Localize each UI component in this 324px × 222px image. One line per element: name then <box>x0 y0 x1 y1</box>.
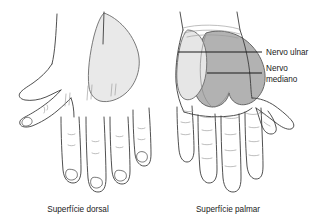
palmar-finger-crease-9 <box>249 127 259 128</box>
dorsal-finger-crease-a <box>68 134 75 135</box>
dorsal-thumb-crease <box>44 107 45 113</box>
palmar-distal-palm-edge <box>184 108 252 117</box>
dorsal-thumb-nail <box>22 117 32 126</box>
caption-dorsal: Superfície dorsal <box>47 205 109 214</box>
dorsal-finger-crease-e <box>116 136 123 137</box>
palmar-finger-ring <box>198 114 217 183</box>
palmar-forearm-left <box>180 12 183 30</box>
palmar-finger-crease-7 <box>225 150 236 151</box>
dorsal-knuckle-crease-3 <box>87 86 88 100</box>
dorsal-thumb-crease-2 <box>47 105 48 110</box>
dorsal-nail-ring <box>115 170 127 181</box>
dorsal-hand <box>19 12 151 192</box>
caption-palmar: Superfície palmar <box>196 205 260 214</box>
palmar-finger-crease-10 <box>249 141 259 142</box>
palmar-wrist-crease-1 <box>183 25 239 29</box>
palmar-hand <box>176 12 294 192</box>
palmar-finger-crease-2 <box>181 134 190 135</box>
dorsal-nail-index <box>66 169 78 180</box>
palmar-finger-crease-4 <box>202 144 212 145</box>
dorsal-finger-ring <box>110 117 130 184</box>
palmar-finger-index <box>245 108 263 179</box>
dorsal-finger-index <box>61 117 81 183</box>
dorsal-finger-crease-c <box>92 141 99 142</box>
label-nervo-ulnar: Nervo ulnar <box>266 48 309 57</box>
dorsal-finger-crease-g <box>138 128 145 129</box>
dorsal-nail-little <box>137 152 148 162</box>
dorsal-sensory-territory-shape <box>88 13 139 102</box>
label-nervo-mediano-line2: mediano <box>266 75 298 84</box>
dorsal-finger-crease-b <box>68 145 75 146</box>
dorsal-finger-little <box>133 108 151 166</box>
dorsal-finger-crease-f <box>116 147 123 148</box>
palmar-thumb-crease-2 <box>264 122 270 126</box>
dorsal-finger-crease-h <box>138 139 145 140</box>
dorsal-thumb-web <box>71 98 74 117</box>
palmar-finger-crease-6 <box>225 134 236 135</box>
dorsal-thumb-outline <box>20 90 71 127</box>
label-nervo-mediano-line1: Nervo <box>266 64 288 73</box>
palmar-finger-crease-8 <box>225 166 236 167</box>
palmar-finger-crease-11 <box>249 155 259 156</box>
palmar-finger-middle <box>221 114 241 192</box>
dorsal-hand-outline <box>19 64 61 100</box>
dorsal-knuckle-crease-1 <box>65 94 66 106</box>
palmar-finger-crease-5 <box>202 158 212 159</box>
palmar-mcp-crease-3 <box>223 117 239 119</box>
dorsal-nail-middle <box>91 177 103 188</box>
palmar-forearm-right <box>237 12 240 30</box>
palmar-finger-crease-3 <box>202 130 212 131</box>
palmar-finger-crease-1 <box>181 122 190 123</box>
dorsal-finger-crease-d <box>92 153 99 154</box>
dorsal-finger-middle <box>86 117 106 192</box>
dorsal-wrist-left <box>52 14 57 64</box>
nerve-territory-figure: Nervo ulnar Nervo mediano Superfície dor… <box>0 0 324 222</box>
